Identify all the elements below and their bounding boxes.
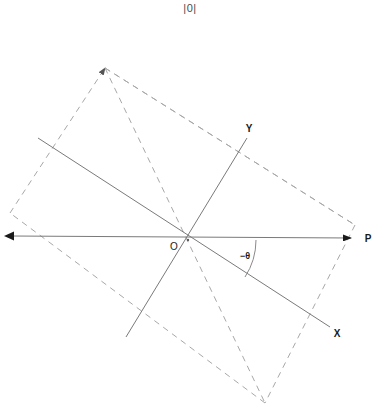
dashed-diagonals-group bbox=[105, 68, 355, 403]
origin-label: O bbox=[170, 241, 178, 252]
dashed-diagonal-top-right bbox=[105, 68, 355, 225]
x-axis-label: X bbox=[334, 328, 341, 339]
origin-point bbox=[187, 239, 189, 241]
angle-label: −θ bbox=[240, 251, 250, 261]
figure-root: |0| bbox=[0, 0, 380, 412]
y-axis-label: Y bbox=[246, 123, 253, 134]
geometry-diagram: O Y X P −θ bbox=[0, 0, 380, 412]
dashed-edge-left-top bbox=[10, 68, 105, 213]
left-arrowhead-icon bbox=[4, 232, 14, 241]
dashed-rectangle-group bbox=[10, 68, 355, 403]
dashed-diagonal-top-bottom bbox=[105, 68, 265, 403]
reference-point-label: P bbox=[365, 233, 372, 244]
dashed-edge-bottom-left bbox=[10, 213, 265, 403]
horizontal-reference-axis bbox=[12, 236, 351, 238]
rotated-x-axis-line bbox=[38, 138, 330, 327]
